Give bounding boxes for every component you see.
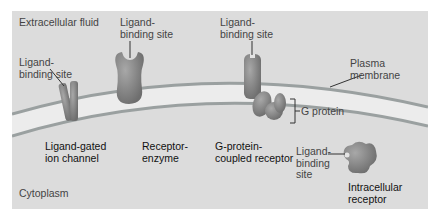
receptor-name-ion-channel: Ligand-gated ion channel	[45, 141, 106, 164]
diagram-panel: Extracellular fluid Cytoplasm Ligand- bi…	[12, 11, 428, 209]
receptor-name-enzyme: Receptor- enzyme	[142, 141, 188, 164]
plasma-membrane-label: Plasma membrane	[350, 58, 400, 81]
intracellular-binding-site-label: Ligand- binding site	[296, 146, 331, 181]
enzyme-binding-site-label: Ligand- binding site	[120, 17, 173, 40]
g-protein-label: G protein	[301, 106, 344, 118]
ion-channel-binding-site-label: Ligand- binding site	[19, 57, 72, 80]
membrane-illustration	[12, 11, 428, 209]
gpcr-binding-site-label: Ligand- binding site	[220, 17, 273, 40]
extracellular-label: Extracellular fluid	[19, 17, 99, 29]
cytoplasm-label: Cytoplasm	[19, 188, 69, 200]
receptor-enzyme-icon	[115, 52, 144, 104]
receptor-name-intracellular: Intracellular receptor	[348, 182, 402, 205]
receptor-name-gpcr: G-protein- coupled receptor	[215, 141, 293, 164]
gpcr-icon	[244, 54, 261, 99]
intracellular-receptor-icon	[344, 142, 377, 174]
